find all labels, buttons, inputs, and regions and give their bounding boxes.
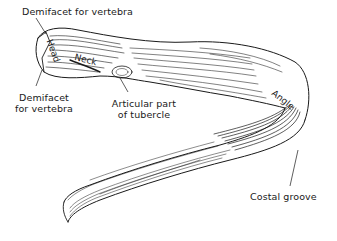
label-articular-tubercle: Articular part of tubercle — [106, 98, 182, 120]
label-demifacet-bottom-line1: Demifacet — [14, 92, 74, 103]
label-demifacet-bottom-line2: for vertebra — [14, 103, 74, 114]
label-demifacet-top: Demifacet for vertebra — [22, 6, 133, 17]
label-costal-groove: Costal groove — [250, 191, 317, 202]
rib-illustration — [0, 0, 337, 241]
rib-diagram: Demifacet for vertebra Demifacet for ver… — [0, 0, 337, 241]
label-tubercle-line2: of tubercle — [106, 109, 182, 120]
label-tubercle-line1: Articular part — [106, 98, 182, 109]
label-demifacet-bottom: Demifacet for vertebra — [14, 92, 74, 114]
